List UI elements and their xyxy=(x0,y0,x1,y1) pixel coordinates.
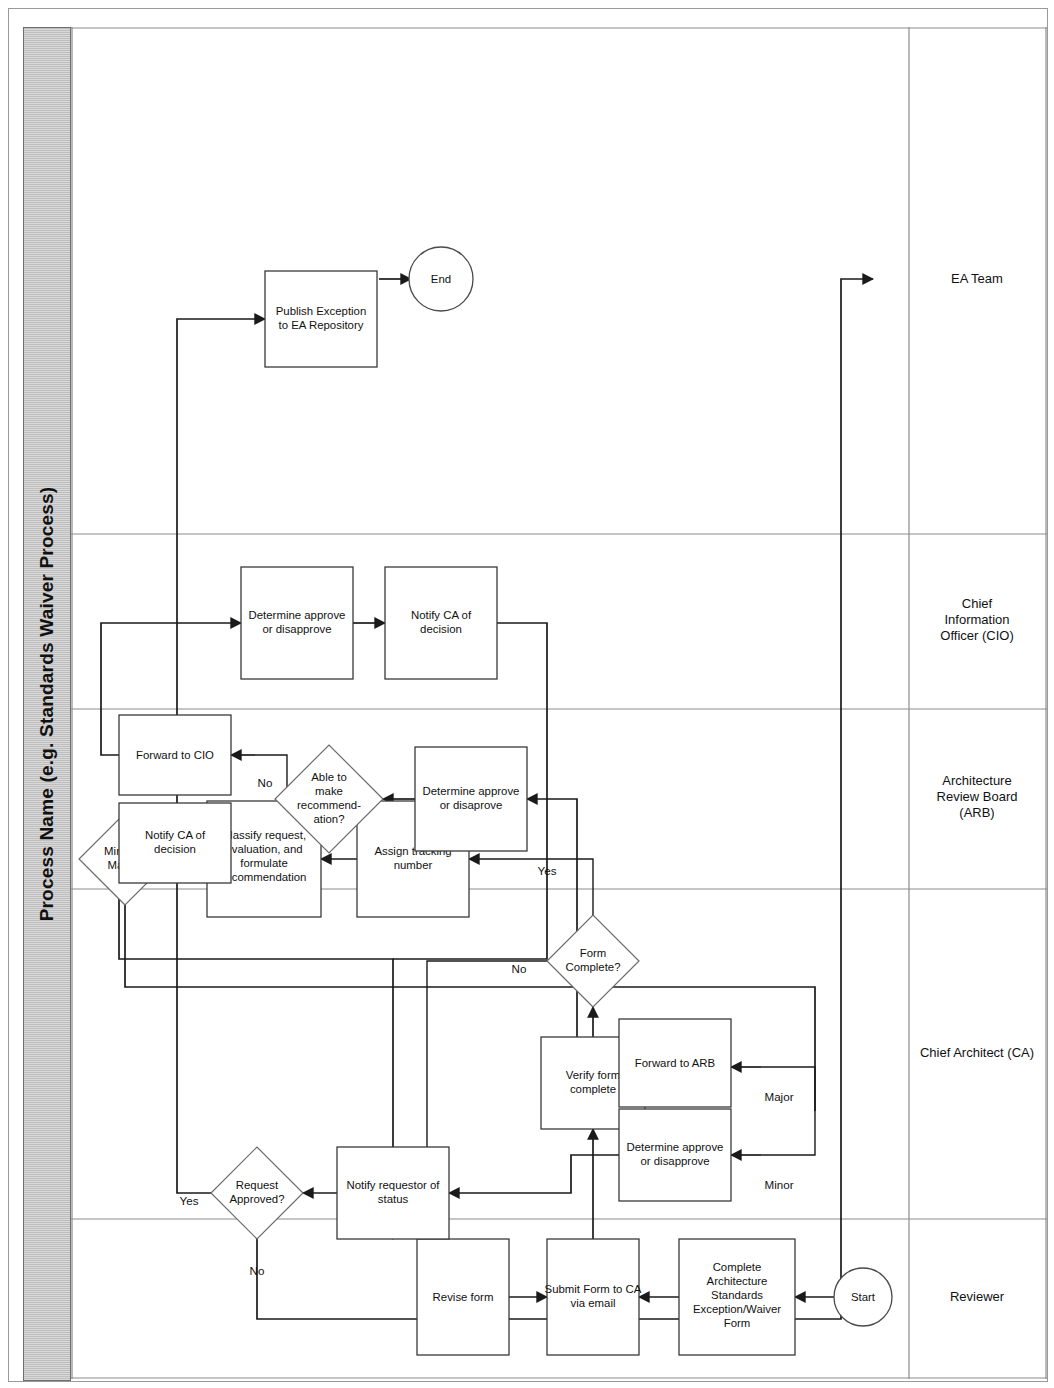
node-label: decision xyxy=(154,843,196,855)
node-forward-to-arb[interactable]: Forward to ARB xyxy=(619,1019,731,1107)
node-label: Publish Exception xyxy=(276,305,367,317)
lane-label-arb: Architecture Review Board (ARB) xyxy=(937,773,1018,820)
edge-label-approved-yes: Yes xyxy=(180,1194,199,1207)
node-label: to EA Repository xyxy=(279,319,364,331)
node-arb-determine-approve[interactable]: Determine approve or disaprove xyxy=(415,747,527,851)
page-title: Process Name (e.g. Standards Waiver Proc… xyxy=(36,487,58,922)
lane-label-ea-team: EA Team xyxy=(951,271,1003,286)
node-start[interactable]: Start xyxy=(834,1268,892,1326)
lane-label-text: Reviewer xyxy=(950,1289,1005,1304)
node-cio-determine-approve[interactable]: Determine approve or disapprove xyxy=(241,567,353,679)
node-complete-form[interactable]: Complete Architecture Standards Exceptio… xyxy=(679,1239,795,1355)
edge-label-major: Major xyxy=(765,1090,794,1103)
node-form-complete-decision[interactable]: Form Complete? xyxy=(547,915,639,1007)
lane-label-chief-architect: Chief Architect (CA) xyxy=(920,1045,1034,1060)
flowchart-page: Process Name (e.g. Standards Waiver Proc… xyxy=(0,0,1054,1388)
node-label: ation? xyxy=(313,813,344,825)
diagram-frame: Process Name (e.g. Standards Waiver Proc… xyxy=(8,8,1048,1382)
node-label: Verify form xyxy=(566,1069,620,1081)
node-label: Approved? xyxy=(229,1193,284,1205)
lane-label-text: EA Team xyxy=(951,271,1003,286)
node-submit-form[interactable]: Submit Form to CA via email xyxy=(545,1239,642,1355)
node-label: or disapprove xyxy=(262,623,331,635)
node-arb-notify-ca[interactable]: Notify CA of decision xyxy=(119,803,231,883)
edge-label-no: No xyxy=(512,962,527,975)
node-label: End xyxy=(431,273,451,285)
process-title-bar: Process Name (e.g. Standards Waiver Proc… xyxy=(23,27,71,1381)
node-label: Forward to ARB xyxy=(635,1057,715,1069)
node-label: Determine approve xyxy=(249,609,346,621)
node-label: Notify requestor of xyxy=(346,1179,440,1191)
node-label: Complete xyxy=(713,1261,762,1273)
edge-major-split xyxy=(761,1067,815,1111)
lane-label-text: Review Board xyxy=(937,789,1018,804)
node-label: Forward to CIO xyxy=(136,749,214,761)
edge-label-approved-no: No xyxy=(250,1264,265,1277)
node-cio-notify-ca[interactable]: Notify CA of decision xyxy=(385,567,497,679)
node-forward-to-cio[interactable]: Forward to CIO xyxy=(119,715,231,795)
node-label: Submit Form to CA xyxy=(545,1283,642,1295)
node-label: make xyxy=(315,785,343,797)
node-label: Able to xyxy=(311,771,346,783)
node-label: Form xyxy=(724,1317,751,1329)
lane-grid xyxy=(71,27,1047,1379)
edge-label-able-no: No xyxy=(258,776,273,789)
edge-minor-split xyxy=(761,1111,815,1155)
lane-label-reviewer: Reviewer xyxy=(950,1289,1005,1304)
node-label: or disaprove xyxy=(440,799,503,811)
node-publish-exception[interactable]: Publish Exception to EA Repository xyxy=(265,271,377,367)
lane-label-cio: Chief Information Officer (CIO) xyxy=(940,596,1013,643)
node-label: Notify CA of xyxy=(145,829,206,841)
node-revise-form[interactable]: Revise form xyxy=(417,1239,509,1355)
node-notify-requestor[interactable]: Notify requestor of status xyxy=(337,1147,449,1239)
node-request-approved-decision[interactable]: Request Approved? xyxy=(211,1147,303,1239)
node-label: Form xyxy=(580,947,607,959)
lane-label-text: Chief Architect (CA) xyxy=(920,1045,1034,1060)
node-ca-determine-approve[interactable]: Determine approve or disapprove xyxy=(619,1109,731,1201)
node-label: Classify request, xyxy=(222,829,306,841)
node-label: status xyxy=(378,1193,409,1205)
edge-label-minor: Minor xyxy=(765,1178,794,1191)
flowchart-svg: Reviewer Chief Architect (CA) Architectu… xyxy=(71,27,1047,1379)
swimlane-canvas: Reviewer Chief Architect (CA) Architectu… xyxy=(71,27,1047,1379)
node-label: Determine approve xyxy=(627,1141,724,1153)
node-label: evaluation, and xyxy=(225,843,302,855)
node-label: recommendation xyxy=(222,871,307,883)
lane-label-text: Chief xyxy=(962,596,993,611)
lane-label-text: Officer (CIO) xyxy=(940,628,1013,643)
node-label: Determine approve xyxy=(423,785,520,797)
lane-label-text: (ARB) xyxy=(959,805,994,820)
node-label: complete xyxy=(570,1083,616,1095)
node-label: Revise form xyxy=(433,1291,494,1303)
node-label: Standards xyxy=(711,1289,763,1301)
lane-label-text: Architecture xyxy=(942,773,1011,788)
node-label: number xyxy=(394,859,433,871)
node-label: via email xyxy=(571,1297,616,1309)
node-label: Exception/Waiver xyxy=(693,1303,781,1315)
node-label: or disapprove xyxy=(640,1155,709,1167)
node-label: Architecture xyxy=(707,1275,768,1287)
node-label: formulate xyxy=(240,857,287,869)
node-label: Request xyxy=(236,1179,279,1191)
lane-label-text: Information xyxy=(944,612,1009,627)
node-label: Start xyxy=(851,1291,876,1303)
node-label: recommend- xyxy=(297,799,361,811)
node-end[interactable]: End xyxy=(409,247,473,311)
node-label: Notify CA of xyxy=(411,609,472,621)
node-label: Complete? xyxy=(565,961,620,973)
edge-label-yes: Yes xyxy=(538,864,557,877)
node-label: decision xyxy=(420,623,462,635)
